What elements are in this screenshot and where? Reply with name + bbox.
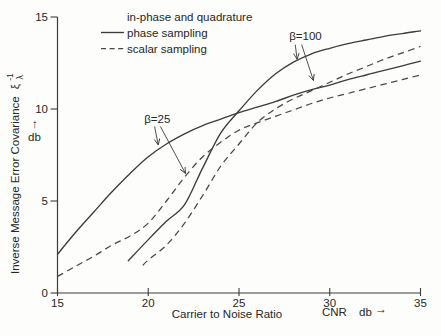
y-axis-title: Inverse Message Error Covariance ξ -1 λ: [3, 70, 25, 274]
db-up-arrow-icon: ↑: [32, 118, 38, 130]
y-tick-label: 5: [42, 195, 48, 207]
xi-subscript: λ: [15, 74, 25, 79]
y-tick-label: 10: [35, 103, 48, 115]
xi-symbol: ξ: [9, 84, 21, 89]
annotation-arrow--25: [155, 126, 159, 144]
curve-scalar-sampling-25: [58, 75, 421, 276]
x-tick-label: 35: [414, 297, 427, 309]
annotation-arrow--25: [160, 126, 185, 173]
axis-lines: [58, 17, 421, 293]
x-tick-label: 15: [51, 297, 64, 309]
y-tick-label: 15: [35, 11, 48, 23]
y-axis-title-text: Inverse Message Error Covariance: [9, 96, 21, 274]
y-tick-label: 0: [42, 287, 48, 299]
legend-phase-sampling-label: phase sampling: [127, 27, 208, 39]
legend-scalar-sampling-label: scalar sampling: [127, 43, 207, 55]
x-axis-title: Carrier to Noise Ratio: [172, 308, 283, 320]
cnr-right-arrow-icon: →: [375, 302, 387, 316]
annotation-arrow--100: [302, 45, 314, 81]
legend: in-phase and quadrature phase sampling s…: [101, 11, 252, 55]
curve-phase-sampling-100: [128, 31, 420, 261]
xi-superscript: -1: [5, 73, 15, 81]
curve-scalar-sampling-100: [143, 46, 421, 265]
x-axis-unit: db: [359, 306, 372, 318]
annotation-arrow--100: [295, 45, 297, 60]
axes: 0510151520253035: [35, 11, 427, 309]
x-axis-abbrev: CNR: [322, 306, 347, 318]
chart-canvas: 0510151520253035 β=25β=100 Inverse Messa…: [0, 0, 441, 336]
data-curves: [58, 31, 421, 277]
annotation-label--25: β=25: [144, 113, 170, 125]
legend-inphase-quadrature-label: in-phase and quadrature: [127, 11, 252, 23]
y-axis-unit: db: [28, 131, 41, 143]
annotation-label--100: β=100: [289, 30, 322, 42]
chart-figure: 0510151520253035 β=25β=100 Inverse Messa…: [0, 0, 441, 336]
curve-phase-sampling-25: [58, 61, 421, 254]
x-tick-label: 20: [142, 297, 155, 309]
